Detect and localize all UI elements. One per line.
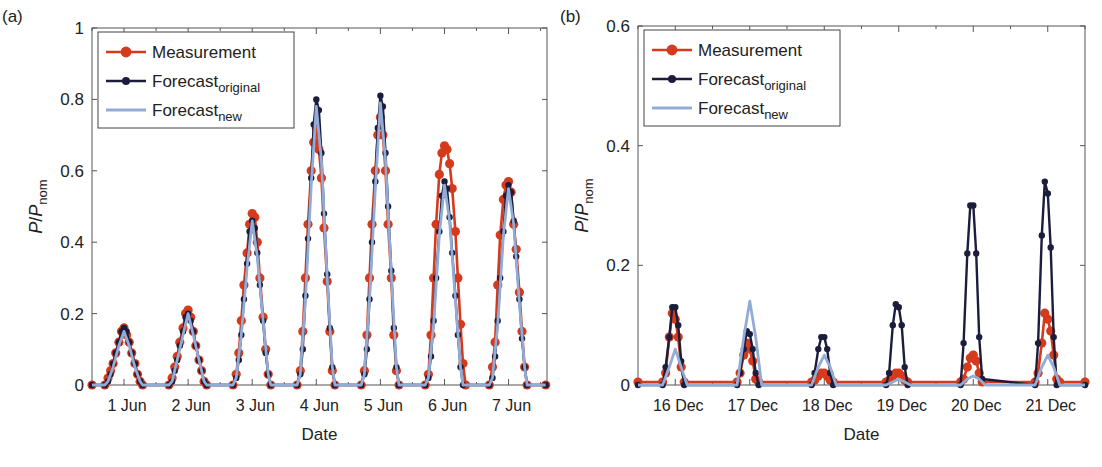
- legend: MeasurementForecastoriginalForecastnew: [98, 32, 294, 128]
- data-point: [896, 304, 902, 310]
- data-point: [442, 145, 451, 154]
- x-tick-label: 1 Jun: [107, 397, 146, 414]
- data-point: [1039, 232, 1045, 238]
- data-point: [666, 334, 672, 340]
- data-point: [672, 304, 678, 310]
- data-point: [976, 334, 982, 340]
- data-point: [451, 227, 460, 236]
- y-tick-label: 0.6: [606, 17, 630, 36]
- x-tick-label: 7 Jun: [492, 397, 531, 414]
- data-point: [445, 159, 454, 168]
- x-tick-label: 21 Dec: [1025, 397, 1076, 414]
- data-point: [1048, 244, 1054, 250]
- x-tick-label: 18 Dec: [802, 397, 853, 414]
- data-point: [902, 364, 908, 370]
- x-tick-label: 5 Jun: [364, 397, 403, 414]
- legend: MeasurementForecastoriginalForecastnew: [644, 30, 840, 126]
- x-tick-label: 16 Dec: [653, 397, 704, 414]
- panel-a-plot-area: 00.20.40.60.811 Jun2 Jun3 Jun4 Jun5 Jun6…: [26, 19, 550, 444]
- x-tick-label: 3 Jun: [236, 397, 275, 414]
- x-tick-label: 19 Dec: [876, 397, 927, 414]
- y-tick-label: 0.2: [606, 256, 630, 275]
- legend-marker-icon: [121, 47, 132, 58]
- data-point: [377, 93, 383, 99]
- y-tick-label: 0.4: [60, 233, 84, 252]
- y-tick-label: 0.4: [606, 137, 630, 156]
- data-point: [960, 340, 966, 346]
- data-point: [821, 334, 827, 340]
- x-tick-label: 20 Dec: [951, 397, 1002, 414]
- data-point: [753, 370, 759, 376]
- data-point: [973, 250, 979, 256]
- x-axis-label: Date: [302, 425, 338, 444]
- y-axis-label: P/Pnom: [572, 178, 596, 232]
- x-tick-label: 6 Jun: [428, 397, 467, 414]
- data-point: [1042, 178, 1048, 184]
- data-point: [1051, 334, 1057, 340]
- panel-a-label: (a): [2, 7, 23, 26]
- legend-label: Measurement: [698, 41, 802, 60]
- data-point: [1043, 315, 1052, 324]
- legend-label: Measurement: [152, 43, 256, 62]
- y-axis-label: P/Pnom: [26, 179, 50, 233]
- x-tick-label: 17 Dec: [727, 397, 778, 414]
- data-point: [963, 363, 972, 372]
- data-point: [815, 346, 821, 352]
- y-tick-label: 0.6: [60, 162, 84, 181]
- data-point: [1045, 190, 1051, 196]
- data-point: [890, 322, 896, 328]
- data-point: [435, 170, 444, 179]
- y-tick-label: 0: [75, 376, 84, 395]
- data-point: [886, 370, 892, 376]
- data-point: [972, 357, 981, 366]
- data-point: [675, 322, 681, 328]
- figure: (a) 00.20.40.60.811 Jun2 Jun3 Jun4 Jun5 …: [0, 0, 1102, 467]
- legend-marker-icon: [122, 77, 130, 85]
- data-point: [747, 331, 753, 337]
- panel-a-chart: (a) 00.20.40.60.811 Jun2 Jun3 Jun4 Jun5 …: [2, 7, 550, 444]
- legend-marker-icon: [668, 75, 676, 83]
- data-point: [1035, 340, 1041, 346]
- data-point: [899, 322, 905, 328]
- x-tick-label: 2 Jun: [172, 397, 211, 414]
- legend-marker-icon: [667, 45, 678, 56]
- panel-b-plot-area: 00.20.40.616 Dec17 Dec18 Dec19 Dec20 Dec…: [572, 17, 1090, 444]
- x-tick-label: 4 Jun: [300, 397, 339, 414]
- panel-b-chart: (b) 00.20.40.616 Dec17 Dec18 Dec19 Dec20…: [560, 7, 1090, 444]
- data-point: [313, 96, 319, 102]
- data-point: [824, 346, 830, 352]
- y-tick-label: 0.2: [60, 305, 84, 324]
- panel-b-label: (b): [560, 7, 581, 26]
- x-axis-label: Date: [844, 425, 880, 444]
- y-tick-label: 1: [75, 19, 84, 38]
- data-point: [750, 346, 756, 352]
- y-tick-label: 0.8: [60, 90, 84, 109]
- data-point: [964, 250, 970, 256]
- data-point: [970, 202, 976, 208]
- y-tick-label: 0: [621, 376, 630, 395]
